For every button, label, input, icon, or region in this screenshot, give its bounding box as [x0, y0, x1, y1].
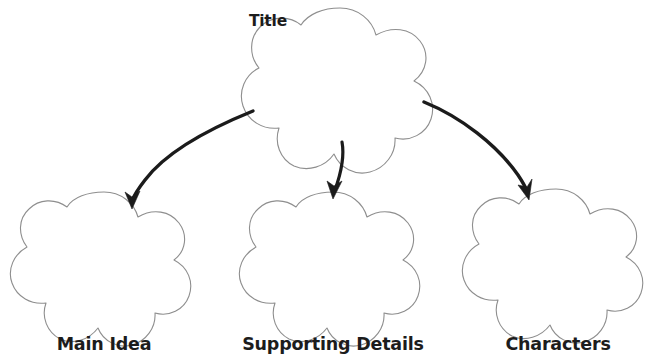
characters-star-shape[interactable] [462, 189, 642, 343]
arrow-title-to-main-idea-curve [132, 111, 253, 201]
graphic-organizer-diagram: Title Main Idea Supporting Details Chara… [0, 0, 656, 362]
node-label-supporting-details: Supporting Details [242, 334, 424, 354]
arrow-title-to-characters-curve [424, 102, 527, 191]
node-label-title: Title [249, 12, 287, 30]
node-title[interactable]: Title [241, 8, 432, 173]
node-label-main-idea: Main Idea [57, 334, 152, 354]
supporting-details-star-shape[interactable] [239, 192, 419, 346]
node-supporting-details[interactable]: Supporting Details [239, 192, 423, 354]
node-main-idea[interactable]: Main Idea [10, 192, 190, 354]
title-star-shape[interactable] [241, 8, 432, 173]
main-idea-star-shape[interactable] [10, 192, 190, 346]
node-characters[interactable]: Characters [462, 189, 642, 354]
arrow-title-to-characters [424, 102, 532, 200]
arrow-title-to-main-idea [125, 111, 253, 209]
node-label-characters: Characters [505, 334, 610, 354]
